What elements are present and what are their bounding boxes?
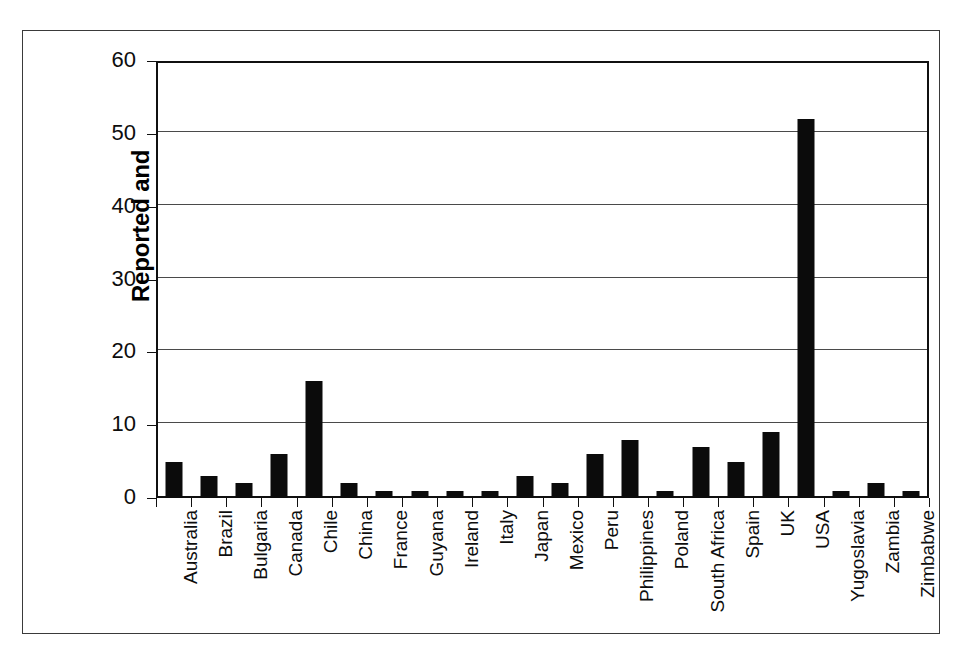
y-tick-label-20: 20 — [90, 338, 136, 364]
x-axis-label: Japan — [532, 510, 551, 657]
y-tick-40 — [147, 207, 156, 208]
x-tick — [261, 498, 262, 507]
bar[interactable] — [481, 491, 498, 498]
y-tick-label-30: 30 — [90, 266, 136, 292]
bar-slot — [367, 61, 402, 498]
x-tick — [437, 498, 438, 507]
x-axis-label: Guyana — [427, 510, 446, 657]
x-axis-label: Canada — [286, 510, 305, 657]
bar[interactable] — [657, 491, 674, 498]
bar[interactable] — [516, 476, 533, 498]
y-tick-label-60: 60 — [90, 47, 136, 73]
bar-series — [156, 61, 929, 498]
y-tick-label-10: 10 — [90, 411, 136, 437]
bar-slot — [718, 61, 753, 498]
x-axis-label: Mexico — [567, 510, 586, 657]
bar-slot — [859, 61, 894, 498]
y-tick-30 — [147, 280, 156, 281]
x-axis-label: Italy — [497, 510, 516, 657]
x-axis-label: Spain — [743, 510, 762, 657]
x-tick — [507, 498, 508, 507]
x-axis-label: Australia — [181, 510, 200, 657]
bar[interactable] — [165, 462, 182, 498]
x-axis-label: Poland — [672, 510, 691, 657]
x-tick — [613, 498, 614, 507]
x-tick — [859, 498, 860, 507]
bar[interactable] — [200, 476, 217, 498]
x-axis-label: USA — [813, 510, 832, 657]
bar[interactable] — [235, 483, 252, 498]
bar-slot — [648, 61, 683, 498]
bar-slot — [578, 61, 613, 498]
x-tick — [332, 498, 333, 507]
bar-slot — [297, 61, 332, 498]
bar-slot — [894, 61, 929, 498]
bar[interactable] — [376, 491, 393, 498]
bar[interactable] — [692, 447, 709, 498]
x-axis-label: South Africa — [708, 510, 727, 657]
bar-slot — [261, 61, 296, 498]
x-tick — [226, 498, 227, 507]
y-tick-50 — [147, 134, 156, 135]
y-tick-10 — [147, 425, 156, 426]
x-tick — [683, 498, 684, 507]
x-axis-label: Brazil — [216, 510, 235, 657]
bar[interactable] — [270, 454, 287, 498]
y-tick-0 — [147, 498, 156, 499]
bar-slot — [332, 61, 367, 498]
bar-slot — [402, 61, 437, 498]
bar-slot — [824, 61, 859, 498]
y-tick-label-40: 40 — [90, 193, 136, 219]
x-tick — [824, 498, 825, 507]
y-tick-label-0: 0 — [90, 484, 136, 510]
bar-slot — [156, 61, 191, 498]
bar-slot — [788, 61, 823, 498]
bar[interactable] — [411, 491, 428, 498]
x-tick — [472, 498, 473, 507]
bar-slot — [613, 61, 648, 498]
bar[interactable] — [903, 491, 920, 498]
x-tick — [788, 498, 789, 507]
bar[interactable] — [798, 119, 815, 498]
bar-slot — [191, 61, 226, 498]
x-axis-label: Ireland — [462, 510, 481, 657]
x-axis-label: UK — [778, 510, 797, 657]
x-tick — [156, 498, 157, 507]
x-tick — [297, 498, 298, 507]
bar-slot — [507, 61, 542, 498]
x-axis-label: Bulgaria — [251, 510, 270, 657]
bar[interactable] — [446, 491, 463, 498]
x-axis-label: Zimbabwe — [918, 510, 937, 657]
x-tick — [191, 498, 192, 507]
y-tick-60 — [147, 61, 156, 62]
x-axis-label: France — [391, 510, 410, 657]
x-tick — [648, 498, 649, 507]
x-tick — [402, 498, 403, 507]
x-axis-label: Philippines — [637, 510, 656, 657]
bar[interactable] — [587, 454, 604, 498]
x-axis-label: Chile — [321, 510, 340, 657]
x-tick — [578, 498, 579, 507]
bar[interactable] — [552, 483, 569, 498]
x-tick — [718, 498, 719, 507]
bar-slot — [683, 61, 718, 498]
bar-slot — [437, 61, 472, 498]
bar-slot — [226, 61, 261, 498]
x-axis-label: Zambia — [883, 510, 902, 657]
bar[interactable] — [306, 381, 323, 498]
bar-slot — [753, 61, 788, 498]
chart-page: Reported and Documented Failures 0102030… — [0, 0, 962, 657]
bar[interactable] — [833, 491, 850, 498]
bar[interactable] — [762, 432, 779, 498]
y-tick-label-50: 50 — [90, 120, 136, 146]
x-axis-label: China — [356, 510, 375, 657]
bar[interactable] — [868, 483, 885, 498]
x-tick — [367, 498, 368, 507]
bar[interactable] — [727, 462, 744, 498]
bar[interactable] — [341, 483, 358, 498]
x-axis-label: Yugoslavia — [848, 510, 867, 657]
bar-slot — [543, 61, 578, 498]
bar-slot — [472, 61, 507, 498]
x-tick — [753, 498, 754, 507]
bar[interactable] — [622, 440, 639, 498]
